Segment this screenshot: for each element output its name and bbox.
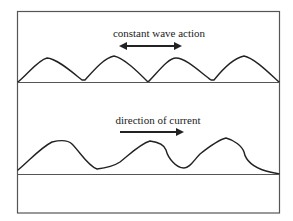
symmetric-ripple-profile	[18, 56, 279, 82]
asymmetric-ripple-profile	[18, 138, 279, 174]
top-panel: constant wave action	[18, 27, 280, 83]
diagram-frame	[18, 12, 280, 214]
bottom-panel: direction of current	[18, 114, 280, 175]
bottom-panel-label: direction of current	[116, 114, 201, 126]
ripple-marks-diagram: constant wave action direction of curren…	[0, 0, 293, 221]
top-panel-label: constant wave action	[113, 27, 206, 39]
